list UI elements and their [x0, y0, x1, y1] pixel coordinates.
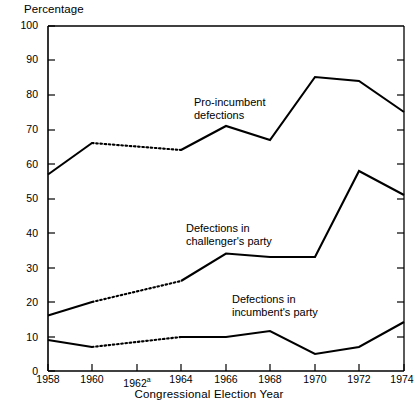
- x-tick-marks: [48, 364, 404, 371]
- annotation-pro-incumbent: Pro-incumbent defections: [194, 96, 266, 121]
- y-tick-marks-right: [397, 60, 404, 337]
- annotation-incumbent-party-line2: incumbent's party: [232, 306, 318, 319]
- series-incumbent-segment-dotted: [92, 337, 181, 347]
- series-challenger-segment-dotted: [92, 281, 181, 302]
- series-challenger-segment-solid-a: [48, 302, 92, 316]
- y-tick-marks: [48, 26, 55, 371]
- annotation-pro-incumbent-line2: defections: [194, 109, 266, 122]
- series-pro-incumbent-segment-dotted: [92, 143, 181, 150]
- x-tick-label-1962-year: 1962: [123, 377, 146, 389]
- series-incumbent-segment-solid-b: [181, 322, 404, 354]
- annotation-incumbent-party: Defections in incumbent's party: [232, 293, 318, 318]
- series-incumbent-segment-solid-a: [48, 340, 92, 347]
- series-pro-incumbent-segment-solid-a: [48, 143, 92, 175]
- annotation-pro-incumbent-line1: Pro-incumbent: [194, 96, 266, 109]
- annotation-challenger-party-line2: challenger's party: [186, 235, 272, 248]
- annotation-challenger-party-line1: Defections in: [186, 222, 272, 235]
- x-tick-label-1974: 1974: [372, 374, 418, 385]
- chart-plot-area: [0, 0, 418, 409]
- annotation-incumbent-party-line1: Defections in: [232, 293, 318, 306]
- x-axis-title: Congressional Election Year: [0, 388, 418, 400]
- annotation-challenger-party: Defections in challenger's party: [186, 222, 272, 247]
- line-chart-figure: Percentage 100 90 80 70 60 50 40 30 20 1…: [0, 0, 418, 409]
